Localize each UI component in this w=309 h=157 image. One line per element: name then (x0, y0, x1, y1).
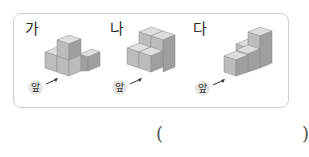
front-badge-na: 앞 (112, 80, 127, 95)
figure-label-ga: 가 (25, 22, 39, 37)
arrow-icon (45, 77, 59, 85)
answer-blank[interactable] (168, 125, 298, 145)
arrow-icon (212, 78, 226, 86)
figure-label-da: 다 (193, 22, 207, 37)
front-badge-ga: 앞 (28, 80, 43, 95)
answer-close-paren: ) (302, 125, 309, 143)
front-badge-da: 앞 (195, 81, 210, 96)
cube-structure-da (222, 26, 282, 84)
figure-label-na: 나 (110, 22, 124, 37)
arrow-icon (129, 77, 143, 85)
cube-structure-na (125, 24, 185, 84)
answer-open-paren: ( (156, 125, 163, 143)
